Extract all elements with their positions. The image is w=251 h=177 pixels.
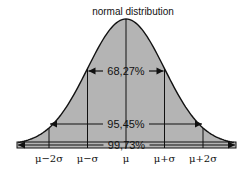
normal-distribution-diagram: normal distribution 68,27% 95,45% 99,73%… bbox=[0, 0, 251, 177]
tick-label: μ−σ bbox=[77, 153, 99, 164]
tick-label: μ−2σ bbox=[35, 153, 63, 164]
tick-label: μ+2σ bbox=[189, 153, 217, 164]
tick-label: μ bbox=[123, 153, 130, 164]
interval-label: 95,45% bbox=[107, 118, 145, 130]
diagram-title: normal distribution bbox=[92, 6, 174, 17]
interval-label: 68,27% bbox=[107, 65, 145, 77]
interval-label: 99,73% bbox=[108, 139, 146, 151]
tick-label: μ+σ bbox=[154, 153, 176, 164]
